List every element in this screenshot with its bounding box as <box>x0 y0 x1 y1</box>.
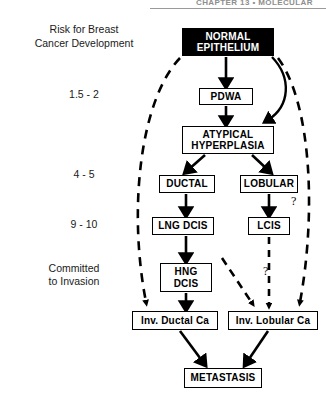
node-lcis: LCIS <box>248 217 290 235</box>
node-normal-epithelium: NORMAL EPITHELIUM <box>182 28 274 56</box>
figure-canvas: CHAPTER 13 • MOLECULAR Risk for Breast C… <box>0 0 326 400</box>
node-lng-dcis: LNG DCIS <box>152 217 214 235</box>
edge-invductal-to-metastasis <box>180 331 203 362</box>
node-inv-lobular-ca: Inv. Lobular Ca <box>228 311 318 330</box>
node-lobular: LOBULAR <box>240 175 298 193</box>
edge-crossover-dashed <box>222 258 252 303</box>
question-mark-crossover-pathway: ? <box>263 264 268 279</box>
node-pdwa: PDWA <box>199 88 253 105</box>
edge-atypical-to-ductal <box>188 155 205 170</box>
edge-invlobular-to-metastasis <box>247 331 268 362</box>
edge-atypical-to-lobular <box>252 155 268 170</box>
question-mark-lobular-pathway: ? <box>291 194 296 209</box>
node-inv-ductal-ca: Inv. Ductal Ca <box>132 311 218 330</box>
node-atypical-hyperplasia: ATYPICAL HYPERPLASIA <box>182 126 274 154</box>
node-hng-dcis: HNG DCIS <box>160 263 212 292</box>
flowchart-connectors <box>0 0 326 400</box>
node-ductal: DUCTAL <box>159 175 215 193</box>
node-metastasis: METASTASIS <box>184 368 262 388</box>
edge-normal-to-atypical-curve <box>268 57 286 120</box>
